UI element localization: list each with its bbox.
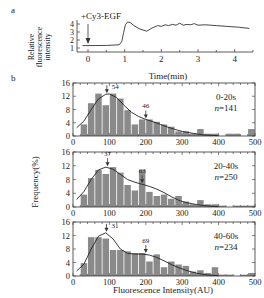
histogram-bar	[175, 196, 181, 207]
xtick-label: 0	[71, 137, 75, 147]
histogram-bar	[81, 124, 87, 136]
fluorescence-trace	[83, 22, 250, 46]
histogram-bar	[161, 195, 167, 207]
histogram-bar	[146, 192, 152, 207]
panel-a-ytick: 4	[70, 20, 74, 29]
histogram-bar	[153, 196, 159, 207]
histogram-bar	[124, 251, 130, 276]
histogram-bar	[103, 239, 109, 276]
frequency-ylabel: Frequency(%)	[30, 156, 40, 207]
histogram-bar	[132, 253, 138, 276]
histogram-bar	[248, 129, 254, 136]
histogram-0-20s: 0481216010020030040050054460-20sn=141	[62, 78, 262, 147]
cy3-egf-annotation: +Cy3-EGF	[81, 11, 121, 21]
xtick-label: 0	[71, 208, 75, 218]
ytick-label: 8	[66, 105, 70, 115]
histogram-bar	[146, 261, 152, 276]
xtick-label: 300	[176, 208, 189, 218]
ytick-label: 4	[66, 258, 71, 268]
panel-b-label: b	[11, 73, 16, 83]
histogram-bar	[103, 174, 109, 207]
histogram-bar	[146, 119, 152, 136]
ytick-label: 16	[62, 78, 71, 88]
panel-a-xtick: 4	[232, 54, 237, 64]
histogram-bar	[110, 94, 116, 136]
ytick-label: 12	[62, 231, 71, 241]
time-window-label: 20-40s	[214, 161, 239, 171]
panel-a-ylabel: Relative fluorescence intensity	[27, 26, 52, 67]
panel-a-xtick: 1	[122, 54, 127, 64]
histogram-bar	[88, 237, 94, 276]
sample-size-label: n=234	[214, 242, 238, 252]
histogram-bar	[124, 185, 130, 207]
sample-size-label: n=250	[214, 172, 238, 182]
peak-label: 46	[142, 102, 150, 110]
svg-text:intensity: intensity	[43, 33, 52, 61]
panel-a-ytick: 1	[70, 44, 74, 53]
xtick-label: 500	[249, 277, 262, 287]
ytick-label: 12	[62, 91, 71, 101]
histogram-20-40s: 04812160100200300400500376320-40sn=250	[62, 147, 262, 218]
panel-a-label: a	[11, 5, 15, 15]
histogram-bar	[248, 273, 254, 276]
panel-a-ytick: 3	[70, 28, 74, 37]
ytick-label: 4	[66, 188, 71, 198]
histogram-bar	[175, 131, 181, 136]
peak-label: 31	[111, 222, 119, 230]
sample-size-label: n=141	[214, 103, 237, 113]
xtick-label: 300	[176, 137, 189, 147]
xtick-label: 100	[103, 208, 116, 218]
xtick-label: 500	[249, 137, 262, 147]
ytick-label: 0	[66, 202, 70, 212]
xtick-label: 400	[212, 137, 225, 147]
histogram-bar	[124, 110, 130, 136]
histogram-bar	[132, 191, 138, 208]
histogram-bar	[95, 237, 101, 276]
ytick-label: 4	[66, 118, 71, 128]
figure-canvas: a b Relative fluorescence intensity 1234…	[0, 0, 264, 298]
peak-label: 37	[104, 150, 112, 158]
histogram-bar	[110, 250, 116, 276]
histogram-bar	[95, 94, 101, 136]
xtick-label: 400	[212, 277, 225, 287]
time-window-label: 40-60s	[214, 231, 239, 241]
ytick-label: 16	[62, 217, 71, 227]
histogram-bar	[212, 267, 218, 276]
xtick-label: 500	[249, 208, 262, 218]
histogram-40-60s: 04812160100200300400500316940-60sn=234	[62, 217, 262, 287]
histogram-bar	[197, 200, 203, 207]
histogram-bar	[103, 105, 109, 136]
xtick-label: 100	[103, 137, 116, 147]
figure: a b Relative fluorescence intensity 1234…	[0, 0, 264, 298]
histogram-bar	[168, 199, 174, 207]
ytick-label: 0	[66, 271, 70, 281]
panel-a-xtick: 0	[86, 54, 91, 64]
xtick-label: 0	[71, 277, 75, 287]
peak-label: 63	[139, 167, 147, 175]
histogram-bar	[88, 103, 94, 136]
panel-a-xtick: 2	[159, 54, 164, 64]
xtick-label: 200	[139, 137, 152, 147]
panel-a-line-chart: Relative fluorescence intensity 12340123…	[27, 11, 253, 81]
histogram-bar	[117, 250, 123, 276]
histogram-bar	[139, 119, 145, 136]
peak-label: 54	[112, 83, 120, 91]
panel-a-xtick: 3	[196, 54, 201, 64]
histogram-bar	[110, 167, 116, 207]
histogram-bar	[161, 267, 167, 276]
peak-label: 69	[142, 237, 150, 245]
ytick-label: 0	[66, 131, 70, 141]
time-window-label: 0-20s	[216, 92, 236, 102]
histogram-bar	[117, 173, 123, 207]
ytick-label: 12	[62, 161, 71, 171]
fluorescence-intensity-xlabel: Fluorescence Intensity(AU)	[113, 285, 213, 295]
ytick-label: 8	[66, 244, 70, 254]
panel-a-ytick: 2	[70, 36, 74, 45]
histogram-bar	[132, 124, 138, 136]
xtick-label: 200	[139, 208, 152, 218]
ytick-label: 16	[62, 147, 71, 157]
panel-a-xlabel: Time(min)	[149, 71, 188, 81]
ytick-label: 8	[66, 175, 70, 185]
histogram-bar	[95, 170, 101, 207]
histogram-bar	[81, 263, 87, 276]
